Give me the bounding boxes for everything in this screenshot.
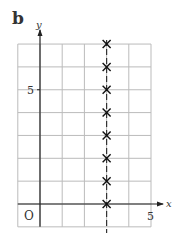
y-axis-arrow-icon (38, 29, 43, 36)
grid-lines (18, 44, 151, 227)
panel-label: b (12, 8, 24, 28)
y-tick-label: 5 (27, 84, 34, 97)
x-axis-label: x (166, 198, 172, 209)
coordinate-grid-plot: b y x O 5 5 (0, 0, 175, 240)
x-axis-arrow-icon (157, 202, 164, 207)
axes (18, 29, 164, 227)
y-axis-label: y (35, 19, 42, 30)
origin-label: O (24, 209, 34, 223)
x-tick-label: 5 (147, 210, 154, 223)
